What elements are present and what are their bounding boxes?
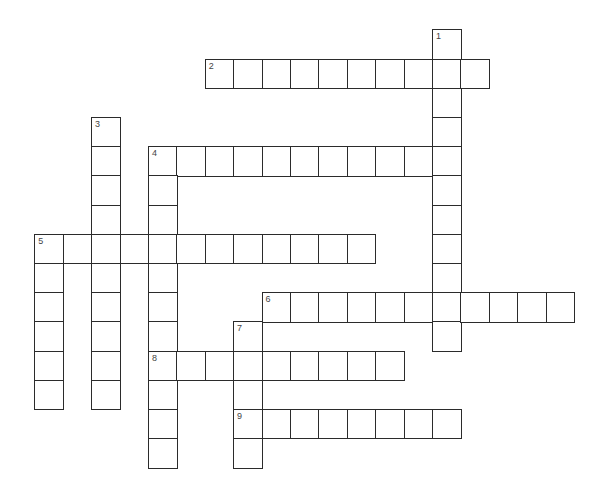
crossword-cell[interactable] — [318, 409, 348, 440]
crossword-cell[interactable] — [91, 380, 121, 411]
crossword-cell[interactable] — [347, 292, 377, 323]
crossword-cell[interactable] — [290, 146, 320, 177]
crossword-cell[interactable] — [63, 234, 93, 265]
crossword-cell[interactable] — [432, 175, 462, 206]
crossword-cell[interactable] — [404, 409, 434, 440]
crossword-cell[interactable] — [290, 234, 320, 265]
crossword-cell[interactable]: 9 — [233, 409, 263, 440]
clue-number: 3 — [95, 120, 100, 129]
crossword-cell[interactable] — [318, 292, 348, 323]
crossword-cell[interactable] — [34, 321, 64, 352]
crossword-cell[interactable] — [91, 205, 121, 236]
crossword-cell[interactable] — [148, 263, 178, 294]
crossword-cell[interactable]: 6 — [262, 292, 292, 323]
crossword-cell[interactable] — [148, 205, 178, 236]
crossword-cell[interactable] — [148, 438, 178, 469]
crossword-cell[interactable]: 8 — [148, 351, 178, 382]
crossword-cell[interactable] — [148, 175, 178, 206]
crossword-cell[interactable] — [34, 380, 64, 411]
crossword-cell[interactable] — [91, 321, 121, 352]
crossword-cell[interactable] — [318, 351, 348, 382]
crossword-cell[interactable] — [148, 321, 178, 352]
crossword-cell[interactable] — [91, 351, 121, 382]
crossword-cell[interactable] — [290, 292, 320, 323]
crossword-cell[interactable] — [432, 88, 462, 119]
crossword-cell[interactable]: 1 — [432, 29, 462, 60]
crossword-cell[interactable] — [375, 146, 405, 177]
crossword-cell[interactable] — [375, 59, 405, 90]
crossword-cell[interactable] — [262, 351, 292, 382]
crossword-cell[interactable]: 7 — [233, 321, 263, 352]
crossword-cell[interactable] — [404, 146, 434, 177]
crossword-cell[interactable] — [91, 292, 121, 323]
crossword-cell[interactable] — [233, 146, 263, 177]
crossword-cell[interactable] — [290, 409, 320, 440]
crossword-cell[interactable] — [176, 146, 206, 177]
crossword-cell[interactable] — [318, 59, 348, 90]
crossword-cell[interactable] — [489, 292, 519, 323]
crossword-cell[interactable] — [233, 234, 263, 265]
crossword-cell[interactable] — [347, 234, 377, 265]
crossword-cell[interactable] — [262, 59, 292, 90]
crossword-cell[interactable] — [375, 292, 405, 323]
crossword-cell[interactable] — [404, 59, 434, 90]
crossword-cell[interactable] — [233, 438, 263, 469]
crossword-cell[interactable] — [176, 351, 206, 382]
crossword-cell[interactable] — [34, 351, 64, 382]
crossword-cell[interactable] — [262, 234, 292, 265]
crossword-cell[interactable] — [404, 292, 434, 323]
crossword-cell[interactable] — [176, 234, 206, 265]
crossword-cell[interactable] — [148, 234, 178, 265]
crossword-cell[interactable] — [432, 205, 462, 236]
crossword-cell[interactable] — [347, 409, 377, 440]
crossword-cell[interactable] — [262, 146, 292, 177]
crossword-cell[interactable] — [432, 321, 462, 352]
crossword-cell[interactable] — [233, 380, 263, 411]
crossword-cell[interactable] — [432, 409, 462, 440]
crossword-cell[interactable] — [318, 234, 348, 265]
crossword-cell[interactable] — [546, 292, 576, 323]
crossword-cell[interactable] — [375, 409, 405, 440]
clue-number: 5 — [38, 237, 43, 246]
crossword-cell[interactable] — [120, 234, 150, 265]
clue-number: 2 — [209, 62, 214, 71]
crossword-cell[interactable] — [517, 292, 547, 323]
crossword-cell[interactable] — [347, 59, 377, 90]
crossword-cell[interactable] — [290, 59, 320, 90]
crossword-cell[interactable] — [432, 117, 462, 148]
crossword-cell[interactable] — [262, 409, 292, 440]
crossword-cell[interactable] — [205, 234, 235, 265]
crossword-cell[interactable]: 3 — [91, 117, 121, 148]
crossword-cell[interactable] — [233, 59, 263, 90]
clue-number: 9 — [237, 412, 242, 421]
crossword-cell[interactable] — [460, 59, 490, 90]
crossword-cell[interactable] — [233, 351, 263, 382]
crossword-cell[interactable] — [148, 380, 178, 411]
crossword-cell[interactable] — [347, 351, 377, 382]
crossword-cell[interactable] — [432, 234, 462, 265]
crossword-cell[interactable] — [432, 59, 462, 90]
crossword-cell[interactable]: 5 — [34, 234, 64, 265]
crossword-cell[interactable] — [91, 234, 121, 265]
crossword-cell[interactable] — [205, 351, 235, 382]
crossword-cell[interactable] — [432, 146, 462, 177]
crossword-cell[interactable]: 2 — [205, 59, 235, 90]
crossword-cell[interactable] — [460, 292, 490, 323]
crossword-cell[interactable] — [91, 263, 121, 294]
crossword-cell[interactable] — [148, 292, 178, 323]
crossword-cell[interactable] — [318, 146, 348, 177]
crossword-cell[interactable] — [290, 351, 320, 382]
clue-number: 1 — [436, 32, 441, 41]
crossword-cell[interactable] — [347, 146, 377, 177]
crossword-cell[interactable] — [91, 146, 121, 177]
crossword-cell[interactable]: 4 — [148, 146, 178, 177]
crossword-cell[interactable] — [375, 351, 405, 382]
crossword-cell[interactable] — [148, 409, 178, 440]
crossword-cell[interactable] — [205, 146, 235, 177]
crossword-cell[interactable] — [91, 175, 121, 206]
crossword-cell[interactable] — [432, 292, 462, 323]
clue-number: 8 — [152, 354, 157, 363]
crossword-cell[interactable] — [34, 263, 64, 294]
crossword-cell[interactable] — [432, 263, 462, 294]
crossword-cell[interactable] — [34, 292, 64, 323]
